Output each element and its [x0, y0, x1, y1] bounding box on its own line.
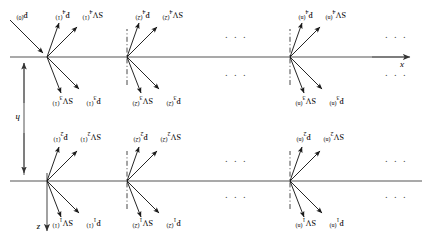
ray-bundle-lower-n	[290, 23, 322, 93]
z-axis-label: z	[36, 223, 40, 233]
ellipsis-upper-far-below: · · ·	[383, 156, 406, 167]
label-SV2-1: SV2(1)	[81, 131, 101, 143]
label-SV3-n: SV3(n)	[296, 95, 316, 107]
label-P3-n: P3(n)	[329, 95, 344, 107]
label-P3-1: P3(1)	[86, 95, 101, 107]
ellipsis-lower-left-below: · · ·	[223, 32, 246, 43]
label-SV2-n: SV2(n)	[324, 131, 344, 143]
label-SV3-2: SV3(2)	[133, 95, 153, 107]
label-P1-2: P1(2)	[166, 217, 181, 229]
label-P2-n: P2(n)	[296, 131, 311, 143]
label-P0-incident: P(0)	[16, 10, 28, 21]
interface-lines	[10, 57, 422, 181]
label-SV1-1: SV1(1)	[53, 217, 73, 229]
label-SV1-2: SV1(2)	[133, 217, 153, 229]
label-P1-n: P1(n)	[329, 217, 344, 229]
rotated-figure-canvas: P1(n) SV1(n) P1(2) SV1(2) P1(1) SV1(1) S…	[0, 0, 432, 243]
ray-bundle-upper-n	[290, 147, 322, 217]
ray-bundle-upper-2	[127, 147, 159, 217]
ellipsis-lower-far-above: · · ·	[383, 70, 406, 81]
label-P2-2: P2(2)	[133, 131, 148, 143]
label-SV1-n: SV1(n)	[296, 217, 316, 229]
ellipsis-upper-left-below: · · ·	[223, 156, 246, 167]
label-SV2-2: SV2(2)	[161, 131, 181, 143]
dashdot-normals	[127, 29, 290, 209]
ray-bundle-upper-1	[47, 147, 79, 217]
ellipsis-upper-far-above: · · ·	[383, 192, 406, 203]
label-P3-2: P3(2)	[166, 95, 181, 107]
label-SV3-1: SV3(1)	[53, 95, 73, 107]
label-P2-1: P2(1)	[53, 131, 68, 143]
label-P4-1: P4(1)	[55, 9, 70, 21]
ray-diagram-figure: P1(n) SV1(n) P1(2) SV1(2) P1(1) SV1(1) S…	[0, 0, 432, 243]
label-SV4-2: SV4(2)	[163, 9, 183, 21]
label-SV4-1: SV4(1)	[83, 9, 103, 21]
label-SV4-n: SV4(n)	[326, 9, 346, 21]
thickness-label: h	[16, 113, 21, 123]
ray-diagram-svg	[0, 0, 432, 243]
ellipsis-lower-left-above: · · ·	[223, 70, 246, 81]
ray-bundle-lower-2	[127, 23, 159, 93]
ellipsis-lower-far-below: · · ·	[383, 32, 406, 43]
ellipsis-upper-left-above: · · ·	[223, 192, 246, 203]
label-P1-1: P1(1)	[86, 217, 101, 229]
label-P4-2: P4(2)	[135, 9, 150, 21]
label-P4-n: P4(n)	[298, 9, 313, 21]
